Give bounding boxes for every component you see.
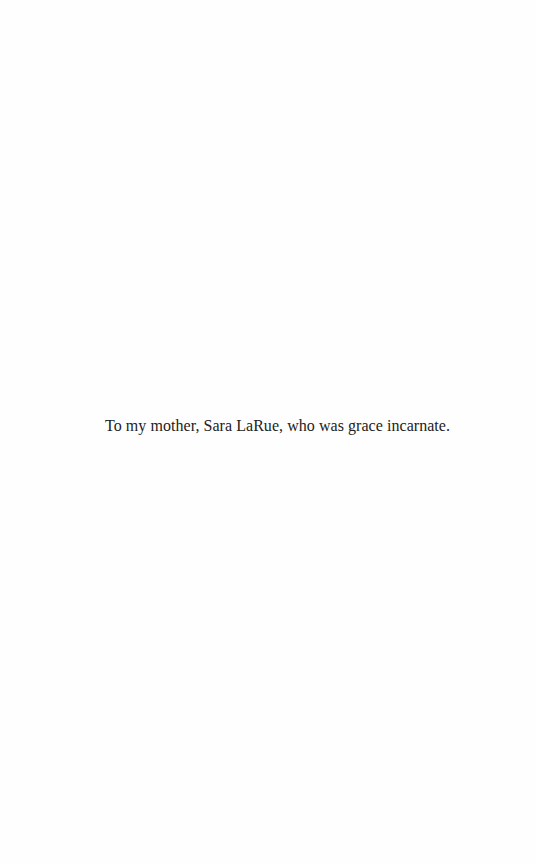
dedication-text: To my mother, Sara LaRue, who was grace … [105,416,450,436]
book-page: To my mother, Sara LaRue, who was grace … [0,0,536,865]
